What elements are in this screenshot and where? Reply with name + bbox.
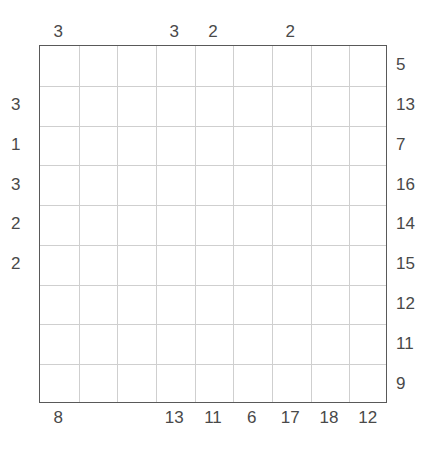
grid-cell-r3c7[interactable] xyxy=(271,125,309,165)
grid-cell-r5c9[interactable] xyxy=(348,204,386,244)
grid-cell-r6c7[interactable] xyxy=(271,244,309,284)
grid-cell-r3c2[interactable] xyxy=(78,125,116,165)
grid-cell-r9c3[interactable] xyxy=(117,362,155,402)
grid-cell-r4c8[interactable] xyxy=(309,165,347,205)
grid-cell-r4c5[interactable] xyxy=(194,165,232,205)
grid-cell-r7c6[interactable] xyxy=(232,283,270,323)
clue-left-2: 3 xyxy=(11,85,37,125)
grid-cell-r1c9[interactable] xyxy=(348,46,386,86)
grid-cell-r7c3[interactable] xyxy=(117,283,155,323)
clue-bottom-6: 6 xyxy=(232,409,271,426)
grid-cell-r5c4[interactable] xyxy=(155,204,193,244)
grid-cell-r7c7[interactable] xyxy=(271,283,309,323)
grid-cell-r1c3[interactable] xyxy=(117,46,155,86)
grid-cell-r5c1[interactable] xyxy=(40,204,78,244)
grid-cell-r1c8[interactable] xyxy=(309,46,347,86)
clue-top-7: 2 xyxy=(271,23,310,40)
clue-right-1: 5 xyxy=(396,45,422,85)
grid-cell-r6c3[interactable] xyxy=(117,244,155,284)
grid-cell-r4c3[interactable] xyxy=(117,165,155,205)
grid-cell-r6c5[interactable] xyxy=(194,244,232,284)
grid-cells xyxy=(40,46,386,402)
grid-cell-r8c9[interactable] xyxy=(348,323,386,363)
grid-cell-r3c3[interactable] xyxy=(117,125,155,165)
grid-cell-r2c1[interactable] xyxy=(40,86,78,126)
grid-cell-r3c9[interactable] xyxy=(348,125,386,165)
grid-cell-r1c7[interactable] xyxy=(271,46,309,86)
puzzle-root: 3 3 2 2 3 1 3 2 2 xyxy=(0,0,440,450)
grid-cell-r9c5[interactable] xyxy=(194,362,232,402)
grid-cell-r7c8[interactable] xyxy=(309,283,347,323)
grid-cell-r6c4[interactable] xyxy=(155,244,193,284)
grid-cell-r8c7[interactable] xyxy=(271,323,309,363)
grid-cell-r9c8[interactable] xyxy=(309,362,347,402)
grid-cell-r7c1[interactable] xyxy=(40,283,78,323)
puzzle-grid[interactable] xyxy=(39,45,387,403)
grid-cell-r4c6[interactable] xyxy=(232,165,270,205)
grid-cell-r8c3[interactable] xyxy=(117,323,155,363)
grid-cell-r2c8[interactable] xyxy=(309,86,347,126)
clues-top: 3 3 2 2 xyxy=(39,18,387,40)
grid-cell-r2c5[interactable] xyxy=(194,86,232,126)
grid-cell-r2c4[interactable] xyxy=(155,86,193,126)
clue-bottom-1: 8 xyxy=(39,409,78,426)
grid-cell-r7c2[interactable] xyxy=(78,283,116,323)
clue-left-5: 2 xyxy=(11,204,37,244)
clues-bottom: 8 13 11 6 17 18 12 xyxy=(39,409,387,431)
grid-cell-r4c9[interactable] xyxy=(348,165,386,205)
grid-cell-r5c5[interactable] xyxy=(194,204,232,244)
grid-cell-r2c9[interactable] xyxy=(348,86,386,126)
grid-cell-r5c7[interactable] xyxy=(271,204,309,244)
grid-cell-r8c8[interactable] xyxy=(309,323,347,363)
grid-cell-r4c1[interactable] xyxy=(40,165,78,205)
grid-cell-r2c3[interactable] xyxy=(117,86,155,126)
grid-cell-r1c2[interactable] xyxy=(78,46,116,86)
grid-cell-r6c2[interactable] xyxy=(78,244,116,284)
grid-cell-r9c4[interactable] xyxy=(155,362,193,402)
grid-cell-r6c9[interactable] xyxy=(348,244,386,284)
clue-left-3: 1 xyxy=(11,125,37,165)
grid-cell-r6c1[interactable] xyxy=(40,244,78,284)
grid-cell-r8c2[interactable] xyxy=(78,323,116,363)
grid-cell-r3c8[interactable] xyxy=(309,125,347,165)
grid-cell-r7c5[interactable] xyxy=(194,283,232,323)
grid-cell-r9c2[interactable] xyxy=(78,362,116,402)
grid-cell-r4c4[interactable] xyxy=(155,165,193,205)
grid-cell-r2c6[interactable] xyxy=(232,86,270,126)
clue-top-5: 2 xyxy=(194,23,233,40)
grid-cell-r5c8[interactable] xyxy=(309,204,347,244)
grid-cell-r3c1[interactable] xyxy=(40,125,78,165)
grid-cell-r3c4[interactable] xyxy=(155,125,193,165)
grid-cell-r9c7[interactable] xyxy=(271,362,309,402)
grid-cell-r5c6[interactable] xyxy=(232,204,270,244)
clue-top-1: 3 xyxy=(39,23,78,40)
grid-cell-r1c5[interactable] xyxy=(194,46,232,86)
grid-cell-r8c6[interactable] xyxy=(232,323,270,363)
grid-cell-r2c7[interactable] xyxy=(271,86,309,126)
grid-cell-r2c2[interactable] xyxy=(78,86,116,126)
grid-cell-r6c8[interactable] xyxy=(309,244,347,284)
clue-left-7 xyxy=(11,284,37,324)
grid-cell-r7c4[interactable] xyxy=(155,283,193,323)
clue-bottom-9: 12 xyxy=(348,409,387,426)
grid-cell-r1c6[interactable] xyxy=(232,46,270,86)
grid-cell-r3c5[interactable] xyxy=(194,125,232,165)
grid-cell-r8c5[interactable] xyxy=(194,323,232,363)
clue-left-8 xyxy=(11,323,37,363)
grid-cell-r9c6[interactable] xyxy=(232,362,270,402)
grid-cell-r5c3[interactable] xyxy=(117,204,155,244)
clue-left-1 xyxy=(11,45,37,85)
grid-cell-r4c2[interactable] xyxy=(78,165,116,205)
grid-cell-r7c9[interactable] xyxy=(348,283,386,323)
grid-cell-r9c1[interactable] xyxy=(40,362,78,402)
grid-cell-r8c4[interactable] xyxy=(155,323,193,363)
grid-cell-r6c6[interactable] xyxy=(232,244,270,284)
grid-cell-r5c2[interactable] xyxy=(78,204,116,244)
grid-cell-r1c4[interactable] xyxy=(155,46,193,86)
grid-cell-r4c7[interactable] xyxy=(271,165,309,205)
grid-cell-r8c1[interactable] xyxy=(40,323,78,363)
grid-cell-r3c6[interactable] xyxy=(232,125,270,165)
clues-left: 3 1 3 2 2 xyxy=(11,45,37,403)
grid-cell-r9c9[interactable] xyxy=(348,362,386,402)
grid-cell-r1c1[interactable] xyxy=(40,46,78,86)
